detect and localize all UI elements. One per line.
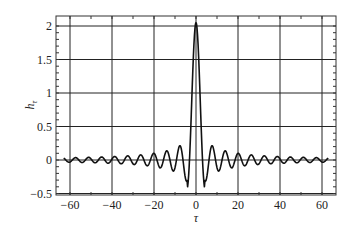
chart: −60−40−200204060 −0.500.511.52 τ hτ [0,0,353,230]
x-axis-tick-labels: −60−40−200204060 [61,198,328,212]
x-tick-label: −60 [61,198,80,212]
x-tick-label: 40 [274,198,286,212]
y-tick-label: 1 [46,86,52,100]
grid-lines [56,16,336,195]
x-tick-label: 60 [316,198,328,212]
x-axis-label: τ [194,211,199,225]
x-tick-label: −20 [145,198,164,212]
y-tick-label: −0.5 [30,187,52,201]
x-tick-label: 0 [193,198,199,212]
y-tick-label: 0.5 [37,120,52,134]
x-tick-label: 20 [232,198,244,212]
svg-text:hτ: hτ [23,99,39,109]
y-axis-label: hτ [23,99,39,109]
y-tick-label: 0 [46,153,52,167]
y-axis-label-sub: τ [30,99,39,103]
y-tick-label: 1.5 [37,53,52,67]
y-tick-label: 2 [46,19,52,33]
x-tick-label: −40 [103,198,122,212]
